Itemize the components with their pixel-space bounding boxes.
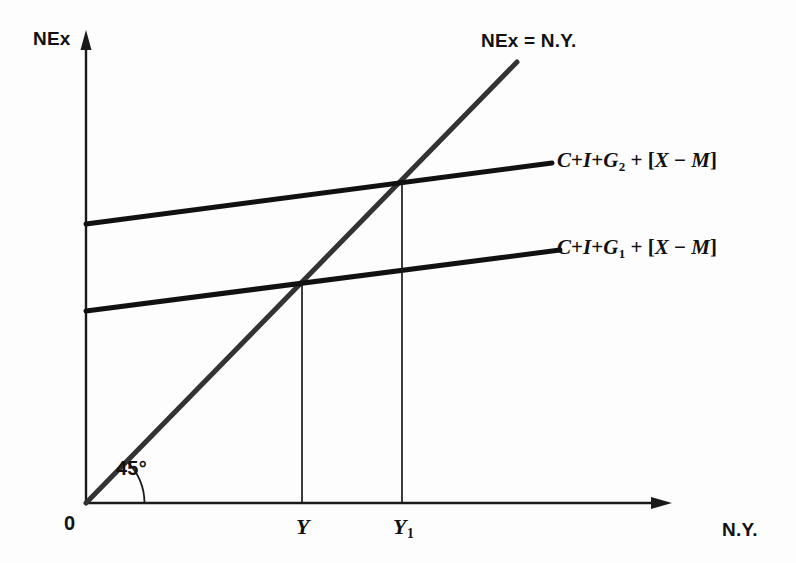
operator-plus: + — [591, 235, 603, 259]
expenditure-line-g2-label: C+I+G2 + [X − M] — [557, 150, 717, 173]
x-axis — [86, 497, 672, 509]
operator-minus: − — [674, 148, 686, 172]
bracket-open: [ — [648, 235, 655, 259]
operator-plus: + — [571, 148, 583, 172]
economics-diagram: NEx N.Y. 45° 0 NEx = N.Y. C+I+G2 + [X − … — [0, 0, 796, 563]
bracket-close: ] — [710, 148, 717, 172]
operator-plus: + — [571, 235, 583, 259]
term-x: X — [655, 235, 669, 259]
x-tick-label-y: Y — [296, 516, 309, 538]
operator-plus: + — [631, 148, 643, 172]
term-g: G — [603, 235, 618, 259]
term-x: X — [655, 148, 669, 172]
operator-plus: + — [631, 235, 643, 259]
expenditure-line-g2 — [86, 163, 552, 224]
term-g: G — [603, 148, 618, 172]
term-g-subscript: 2 — [619, 159, 626, 174]
identity-line-label: NEx = N.Y. — [481, 31, 576, 50]
term-m: M — [691, 148, 710, 172]
term-i: I — [583, 148, 591, 172]
x-tick-label-y1-subscript: 1 — [407, 526, 414, 541]
term-g-subscript: 1 — [619, 246, 626, 261]
x-axis-label: N.Y. — [722, 520, 758, 539]
operator-plus: + — [591, 148, 603, 172]
term-c: C — [557, 148, 571, 172]
term-c: C — [557, 235, 571, 259]
y-axis-label: NEx — [33, 29, 71, 48]
x-tick-label-y1-base: Y — [393, 514, 406, 539]
term-i: I — [583, 235, 591, 259]
operator-minus: − — [674, 235, 686, 259]
term-m: M — [691, 235, 710, 259]
angle-label-45: 45° — [116, 458, 147, 478]
bracket-close: ] — [710, 235, 717, 259]
origin-label: 0 — [64, 513, 75, 533]
expenditure-line-g1-label: C+I+G1 + [X − M] — [557, 237, 717, 260]
x-tick-label-y1: Y1 — [393, 516, 414, 540]
y-axis — [81, 30, 92, 503]
bracket-open: [ — [648, 148, 655, 172]
